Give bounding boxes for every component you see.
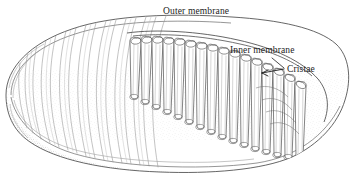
mitochondrion-figure: Outer membrane Inner membrane Cristae [0,0,357,186]
label-inner-membrane: Inner membrane [230,46,295,56]
label-outer-membrane: Outer membrane [163,7,229,17]
label-cristae: Cristae [287,65,315,75]
mitochondrion-drawing [0,0,357,186]
cristae-leader-line-secondary [272,58,284,68]
